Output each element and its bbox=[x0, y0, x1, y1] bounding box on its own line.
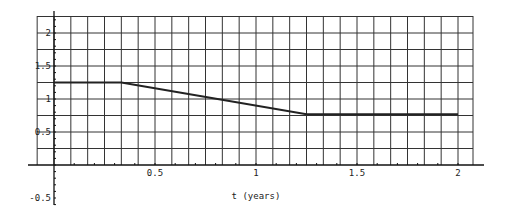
x-tick-label: 0.5 bbox=[147, 168, 163, 178]
y-tick-label: 1.5 bbox=[35, 61, 51, 71]
y-tick-label: 2 bbox=[46, 28, 51, 38]
y-tick-label: 1 bbox=[46, 94, 51, 104]
y-tick-label: -0.5 bbox=[29, 193, 51, 203]
x-tick-labels: 0.511.52 bbox=[147, 168, 461, 178]
y-tick-label: 0.5 bbox=[35, 127, 51, 137]
x-tick-label: 1 bbox=[253, 168, 258, 178]
line-chart: 0.511.52 -0.50.511.52 t (years) bbox=[0, 0, 508, 214]
grid bbox=[37, 16, 473, 165]
x-tick-label: 1.5 bbox=[349, 168, 365, 178]
x-tick-label: 2 bbox=[455, 168, 460, 178]
x-axis-label: t (years) bbox=[232, 191, 281, 201]
